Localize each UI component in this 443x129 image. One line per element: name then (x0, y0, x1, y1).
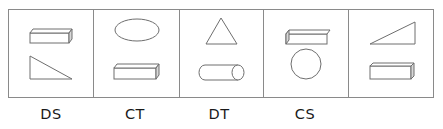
cylinder-icon (199, 65, 244, 80)
panel-label-ds: DS (31, 106, 71, 122)
panel-1 (30, 29, 72, 79)
panel-4 (286, 30, 330, 79)
panel-3 (199, 18, 244, 80)
cuboid-icon (114, 64, 159, 79)
right-triangle-icon (30, 56, 72, 79)
panel-2 (114, 19, 159, 79)
cuboid-icon (370, 63, 414, 79)
panel-5 (370, 22, 415, 79)
panel-label-ct: CT (115, 106, 155, 122)
right-triangle-icon (370, 22, 415, 44)
circle-icon (291, 49, 321, 79)
ellipse-icon (115, 19, 159, 41)
panel-label-cs: CS (285, 106, 325, 122)
triangle-icon (206, 18, 237, 44)
cuboid-icon (30, 29, 72, 43)
panel-label-dt: DT (199, 106, 239, 122)
cuboid-icon (286, 30, 330, 44)
